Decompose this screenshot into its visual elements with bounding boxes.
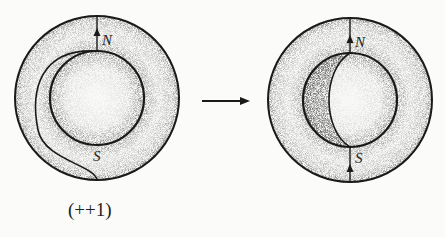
left-south-label: S: [93, 148, 101, 165]
diagram-canvas: [0, 0, 445, 237]
right-south-label: S: [355, 150, 363, 167]
left-north-label: N: [102, 32, 112, 49]
transition-arrow-icon: [202, 97, 250, 105]
right-north-label: N: [355, 34, 365, 51]
figure-caption: (++1): [68, 199, 112, 221]
right-figure: [268, 18, 432, 182]
